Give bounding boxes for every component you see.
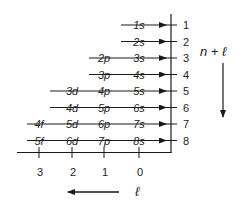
madelung-diagram: 1s12s22p3s33p4s43d4p5s54d5p6s64f5d6p7s75… bbox=[0, 0, 252, 210]
orbital-label: 2p bbox=[97, 52, 110, 64]
n-plus-l-tick-label: 1 bbox=[183, 19, 189, 31]
l-tick-label: 0 bbox=[137, 166, 143, 178]
row-n-plus-l-5: 3d4p5s5 bbox=[50, 85, 189, 97]
orbital-label: 4s bbox=[133, 69, 145, 81]
n-plus-l-axis-label: n + ℓ bbox=[200, 44, 227, 59]
row-n-plus-l-7: 4f5d6p7s7 bbox=[27, 118, 189, 130]
orbital-label: 4p bbox=[98, 85, 110, 97]
n-plus-l-tick-label: 6 bbox=[183, 102, 189, 114]
orbital-label: 4d bbox=[66, 102, 79, 114]
orbital-label: 8s bbox=[133, 135, 145, 147]
l-axis-label: ℓ bbox=[135, 184, 140, 199]
orbital-label: 7s bbox=[133, 118, 145, 130]
orbital-label: 5f bbox=[34, 135, 44, 147]
l-tick-label: 2 bbox=[70, 166, 76, 178]
row-n-plus-l-2: 2s2 bbox=[121, 36, 189, 48]
orbital-label: 6d bbox=[66, 135, 79, 147]
n-plus-l-tick-label: 4 bbox=[183, 69, 189, 81]
orbital-label: 3s bbox=[133, 52, 145, 64]
orbital-label: 3d bbox=[66, 85, 79, 97]
row-n-plus-l-3: 2p3s3 bbox=[89, 52, 189, 64]
n-plus-l-tick-label: 7 bbox=[183, 118, 189, 130]
orbital-label: 7p bbox=[98, 135, 110, 147]
row-n-plus-l-8: 5f6d7p8s8 bbox=[27, 135, 189, 147]
orbital-label: 5s bbox=[133, 85, 145, 97]
l-tick-label: 1 bbox=[102, 166, 108, 178]
orbital-label: 4f bbox=[34, 118, 44, 130]
orbital-label: 6s bbox=[133, 102, 145, 114]
orbital-label: 5p bbox=[98, 102, 110, 114]
orbital-label: 2s bbox=[132, 36, 145, 48]
row-n-plus-l-6: 4d5p6s6 bbox=[50, 102, 189, 114]
orbital-label: 3p bbox=[98, 69, 110, 81]
n-plus-l-tick-label: 2 bbox=[183, 36, 189, 48]
row-n-plus-l-4: 3p4s4 bbox=[89, 69, 189, 81]
n-plus-l-tick-label: 3 bbox=[183, 52, 189, 64]
n-plus-l-tick-label: 5 bbox=[183, 85, 189, 97]
orbital-label: 6p bbox=[98, 118, 110, 130]
orbital-label: 1s bbox=[133, 19, 145, 31]
n-plus-l-tick-label: 8 bbox=[183, 135, 189, 147]
l-tick-label: 3 bbox=[37, 166, 43, 178]
orbital-label: 5d bbox=[66, 118, 79, 130]
row-n-plus-l-1: 1s1 bbox=[121, 19, 189, 31]
